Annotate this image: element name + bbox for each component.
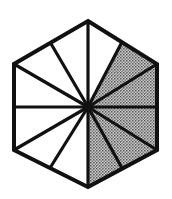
hexagon-sector-figure: Regular hexagon divided into twelve sect… [0,0,172,199]
figure-container: Regular hexagon divided into twelve sect… [0,0,172,199]
center-point [85,104,91,110]
